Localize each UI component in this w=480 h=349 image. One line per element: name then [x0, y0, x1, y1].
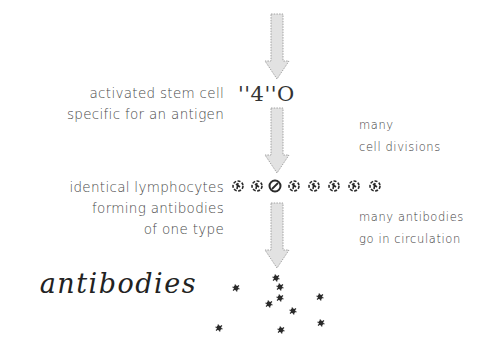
- antibody-icon: [266, 301, 273, 308]
- antibody-cluster: [216, 275, 325, 334]
- antibody-icon: [290, 308, 297, 315]
- lymphocyte-icon: [289, 181, 299, 191]
- antibody-icon: [318, 320, 325, 327]
- antibody-icon: [233, 285, 240, 292]
- antibody-icon: [278, 327, 285, 334]
- arrow-down-icon-1: [265, 14, 289, 79]
- arrow-down-icon-2: [265, 108, 289, 173]
- antibody-icon: [273, 275, 280, 282]
- antibody-icon: [277, 295, 284, 302]
- diagram-graphics: [0, 0, 480, 349]
- lymphocyte-icon: [329, 181, 339, 191]
- lymphocyte-icon: [309, 181, 319, 191]
- antibody-icon: [216, 325, 223, 332]
- arrow-down-icon-3: [265, 203, 289, 268]
- lymphocyte-icon: [270, 181, 281, 192]
- lymphocyte-icon: [252, 181, 262, 191]
- lymphocyte-icon: [370, 181, 380, 191]
- lymphocyte-icon: [349, 181, 359, 191]
- lymphocyte-icon: [233, 181, 243, 191]
- antibody-icon: [317, 294, 324, 301]
- antibody-icon: [277, 284, 284, 291]
- lymphocyte-row: [233, 181, 380, 192]
